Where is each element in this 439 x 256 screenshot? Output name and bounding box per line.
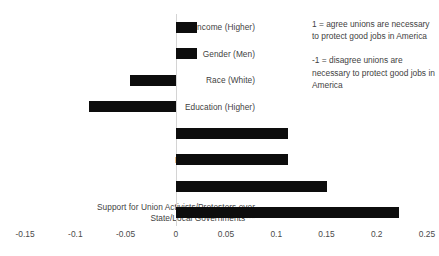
axis-tick-label: -0.15: [16, 228, 35, 240]
axis-tick-label: 0.15: [318, 228, 334, 240]
bar: [176, 207, 399, 218]
value-axis-ticks: -0.15-0.1-0.0500.050.10.150.20.25: [0, 228, 439, 244]
axis-tick-label: 0.2: [371, 228, 383, 240]
bar: [176, 22, 197, 33]
axis-tick-label: 0.25: [419, 228, 435, 240]
bar: [176, 154, 289, 165]
axis-tick-label: 0.05: [218, 228, 234, 240]
bar: [176, 48, 197, 59]
bar-chart: Income (Higher)Gender (Men)Race (White)E…: [0, 0, 439, 256]
axis-tick-label: 0: [173, 228, 178, 240]
bar: [176, 128, 289, 139]
axis-tick-label: -0.05: [116, 228, 135, 240]
annotation-text: 1 = agree unions are necessary to protec…: [312, 18, 436, 42]
bar: [89, 101, 175, 112]
bar: [130, 75, 176, 86]
annotation-block: 1 = agree unions are necessary to protec…: [312, 18, 436, 91]
bar: [176, 181, 328, 192]
annotation-text: -1 = disagree unions are necessary to pr…: [312, 54, 436, 91]
zero-axis-line: [176, 14, 177, 226]
axis-tick-label: -0.1: [68, 228, 82, 240]
axis-tick-label: 0.1: [270, 228, 282, 240]
